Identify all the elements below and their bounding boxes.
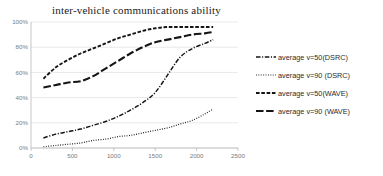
axis-lines — [31, 22, 238, 151]
y-axis-tick-label: 100% — [12, 18, 28, 25]
legend-item[interactable]: average v=50(WAVE) — [256, 84, 381, 102]
legend-item-label: average v=50(DSRC) — [278, 53, 348, 62]
y-axis-tick-labels: 0%20%40%60%80%100% — [12, 18, 28, 151]
legend-item[interactable]: average v=50(DSRC) — [256, 48, 381, 66]
legend-line-swatch — [256, 107, 276, 115]
legend-item[interactable]: average v=90 (WAVE) — [256, 102, 381, 120]
legend-line-swatch — [256, 53, 276, 61]
x-axis-tick-label: 1000 — [107, 152, 121, 159]
legend-item-label: average v=90 (DSRC) — [278, 71, 350, 80]
legend-item-label: average v=50(WAVE) — [278, 89, 348, 98]
legend-item-label: average v=90 (WAVE) — [278, 107, 350, 116]
y-axis-tick-label: 40% — [16, 94, 29, 101]
series-line — [43, 109, 213, 147]
x-axis-tick-label: 2500 — [231, 152, 245, 159]
y-axis-tick-label: 60% — [16, 69, 29, 76]
legend-line-swatch — [256, 71, 276, 79]
x-axis-tick-label: 2000 — [190, 152, 204, 159]
chart-legend: average v=50(DSRC)average v=90 (DSRC)ave… — [256, 48, 381, 120]
x-axis-tick-label: 500 — [67, 152, 78, 159]
y-axis-tick-label: 20% — [16, 119, 29, 126]
data-series — [43, 27, 213, 147]
legend-item[interactable]: average v=90 (DSRC) — [256, 66, 381, 84]
x-axis-tick-label: 0 — [29, 152, 33, 159]
y-axis-tick-label: 0% — [19, 144, 28, 151]
gridlines — [31, 22, 238, 148]
y-axis-tick-label: 80% — [16, 43, 29, 50]
x-axis-tick-labels: 05001000150020002500 — [29, 152, 245, 159]
x-axis-tick-label: 1500 — [148, 152, 162, 159]
legend-line-swatch — [256, 89, 276, 97]
chart-container: inter-vehicle communications ability 0%2… — [0, 0, 383, 176]
